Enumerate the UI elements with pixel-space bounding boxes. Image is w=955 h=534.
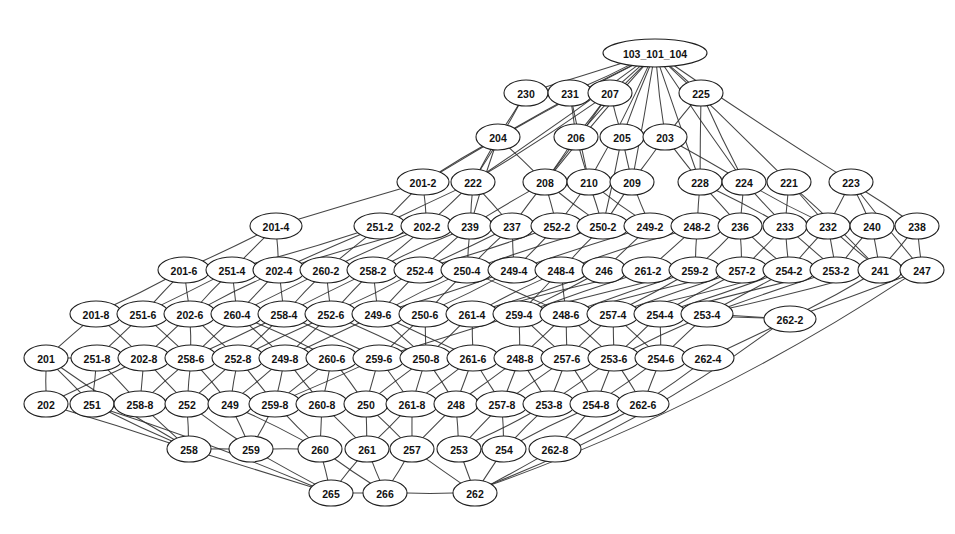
graph-node[interactable]: 261-6 [447, 345, 499, 371]
node-shape[interactable] [309, 480, 353, 506]
node-shape[interactable] [900, 257, 944, 283]
node-shape[interactable] [488, 257, 540, 283]
node-shape[interactable] [531, 213, 583, 239]
graph-node[interactable]: 239 [448, 213, 492, 239]
graph-node[interactable]: 248 [434, 391, 478, 417]
graph-node[interactable]: 253 [437, 436, 481, 462]
node-shape[interactable] [763, 257, 815, 283]
node-shape[interactable] [400, 345, 452, 371]
graph-node[interactable]: 260-8 [296, 391, 348, 417]
graph-node[interactable]: 265 [309, 480, 353, 506]
node-shape[interactable] [250, 213, 302, 239]
node-shape[interactable] [617, 391, 669, 417]
node-shape[interactable] [671, 213, 723, 239]
graph-node[interactable]: 254 [482, 436, 526, 462]
graph-node[interactable]: 258-8 [114, 391, 166, 417]
node-shape[interactable] [298, 436, 342, 462]
node-shape[interactable] [523, 391, 575, 417]
graph-node[interactable]: 225 [679, 80, 723, 106]
node-shape[interactable] [363, 480, 407, 506]
graph-node[interactable]: 202-4 [253, 257, 305, 283]
node-shape[interactable] [494, 345, 546, 371]
graph-node[interactable]: 209 [610, 169, 654, 195]
node-shape[interactable] [718, 213, 762, 239]
node-shape[interactable] [567, 169, 611, 195]
node-shape[interactable] [634, 301, 686, 327]
graph-node[interactable]: 248-8 [494, 345, 546, 371]
node-shape[interactable] [476, 391, 528, 417]
graph-node[interactable]: 257 [390, 436, 434, 462]
node-shape[interactable] [679, 80, 723, 106]
node-shape[interactable] [577, 213, 629, 239]
graph-node[interactable]: 259-6 [353, 345, 405, 371]
graph-node[interactable]: 262-8 [529, 436, 581, 462]
node-shape[interactable] [347, 257, 399, 283]
node-shape[interactable] [548, 80, 592, 106]
graph-node[interactable]: 257-6 [541, 345, 593, 371]
graph-node[interactable]: 261 [345, 436, 389, 462]
graph-node[interactable]: 261-4 [446, 301, 498, 327]
node-shape[interactable] [810, 257, 862, 283]
graph-node[interactable]: 253-2 [810, 257, 862, 283]
node-shape[interactable] [448, 213, 492, 239]
node-shape[interactable] [300, 257, 352, 283]
node-shape[interactable] [344, 391, 388, 417]
node-shape[interactable] [764, 306, 816, 332]
node-shape[interactable] [610, 169, 654, 195]
graph-node[interactable]: 249-4 [488, 257, 540, 283]
graph-node[interactable]: 228 [678, 169, 722, 195]
graph-node[interactable]: 250-8 [400, 345, 452, 371]
graph-node[interactable]: 248-6 [540, 301, 592, 327]
node-shape[interactable] [529, 436, 581, 462]
graph-node[interactable]: 251-4 [206, 257, 258, 283]
graph-node[interactable]: 261-2 [622, 257, 674, 283]
node-shape[interactable] [118, 345, 170, 371]
node-shape[interactable] [493, 301, 545, 327]
graph-node[interactable]: 251-8 [71, 345, 123, 371]
graph-node[interactable]: 222 [451, 169, 495, 195]
node-shape[interactable] [165, 391, 209, 417]
node-shape[interactable] [535, 257, 587, 283]
node-shape[interactable] [858, 257, 902, 283]
graph-node[interactable]: 251 [70, 391, 114, 417]
graph-node[interactable]: 201 [24, 345, 68, 371]
node-shape[interactable] [582, 257, 626, 283]
graph-node[interactable]: 246 [582, 257, 626, 283]
node-shape[interactable] [554, 124, 598, 150]
node-shape[interactable] [211, 301, 263, 327]
node-shape[interactable] [523, 169, 567, 195]
graph-node[interactable]: 252-2 [531, 213, 583, 239]
graph-node[interactable]: 262-4 [682, 345, 734, 371]
graph-node[interactable]: 249 [208, 391, 252, 417]
node-shape[interactable] [394, 257, 446, 283]
node-shape[interactable] [70, 301, 122, 327]
graph-node[interactable]: 262 [453, 480, 497, 506]
node-shape[interactable] [588, 80, 632, 106]
graph-node[interactable]: 251-2 [354, 213, 406, 239]
node-shape[interactable] [249, 391, 301, 417]
node-shape[interactable] [390, 436, 434, 462]
graph-node[interactable]: 207 [588, 80, 632, 106]
node-shape[interactable] [482, 436, 526, 462]
node-shape[interactable] [305, 301, 357, 327]
node-shape[interactable] [24, 345, 68, 371]
graph-node[interactable]: 103_101_104 [603, 39, 707, 67]
graph-node[interactable]: 253-8 [523, 391, 575, 417]
graph-node[interactable]: 248-2 [671, 213, 723, 239]
graph-node[interactable]: 241 [858, 257, 902, 283]
graph-node[interactable]: 249-6 [352, 301, 404, 327]
node-shape[interactable] [681, 301, 733, 327]
graph-node[interactable]: 250-2 [577, 213, 629, 239]
graph-node[interactable]: 254-8 [570, 391, 622, 417]
graph-node[interactable]: 204 [476, 124, 520, 150]
graph-node[interactable]: 260 [298, 436, 342, 462]
node-shape[interactable] [165, 345, 217, 371]
node-shape[interactable] [767, 169, 811, 195]
graph-node[interactable]: 210 [567, 169, 611, 195]
graph-node[interactable]: 201-2 [397, 169, 449, 195]
graph-node[interactable]: 253-4 [681, 301, 733, 327]
node-shape[interactable] [386, 391, 438, 417]
graph-node[interactable]: 262-6 [617, 391, 669, 417]
node-shape[interactable] [229, 436, 273, 462]
graph-node[interactable]: 250 [344, 391, 388, 417]
